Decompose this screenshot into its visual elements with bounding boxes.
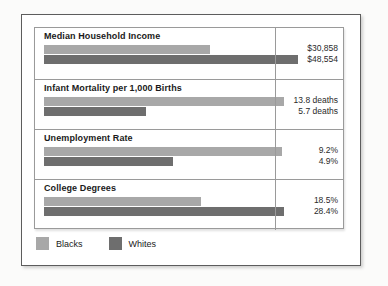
- chart-panel: Median Household Income $30,858 $48,554 …: [34, 27, 344, 229]
- bars-area: [44, 97, 275, 116]
- figure-root: Median Household Income $30,858 $48,554 …: [0, 0, 388, 286]
- metric-row: Median Household Income $30,858 $48,554: [35, 28, 343, 79]
- values-area: 13.8 deaths 5.7 deaths: [276, 95, 344, 117]
- value-whites: 28.4%: [276, 206, 338, 217]
- values-area: 18.5% 28.4%: [276, 195, 344, 217]
- bars-area: [44, 197, 275, 216]
- metric-title: Infant Mortality per 1,000 Births: [44, 83, 182, 93]
- bar-whites: [44, 55, 298, 64]
- value-blacks: 9.2%: [276, 145, 338, 156]
- metric-title: College Degrees: [44, 183, 116, 193]
- bar-whites: [44, 207, 284, 216]
- metric-row: College Degrees 18.5% 28.4%: [35, 179, 343, 230]
- legend-label: Whites: [129, 239, 157, 249]
- value-whites: $48,554: [276, 54, 338, 65]
- bar-blacks: [44, 197, 201, 206]
- bars-area: [44, 147, 275, 166]
- chart-legend: Blacks Whites: [36, 237, 182, 250]
- legend-swatch-icon: [109, 237, 122, 250]
- bar-blacks: [44, 147, 282, 156]
- bar-blacks: [44, 97, 284, 106]
- value-blacks: 13.8 deaths: [276, 95, 338, 106]
- values-area: 9.2% 4.9%: [276, 145, 344, 167]
- value-column-divider: [275, 28, 276, 230]
- bar-blacks: [44, 45, 210, 54]
- bar-whites: [44, 157, 173, 166]
- value-whites: 5.7 deaths: [276, 106, 338, 117]
- bars-area: [44, 45, 275, 64]
- legend-swatch-icon: [36, 237, 49, 250]
- metric-title: Unemployment Rate: [44, 133, 133, 143]
- figure-outer-frame: Median Household Income $30,858 $48,554 …: [21, 14, 361, 266]
- metric-row: Infant Mortality per 1,000 Births 13.8 d…: [35, 79, 343, 129]
- value-blacks: 18.5%: [276, 195, 338, 206]
- metric-row: Unemployment Rate 9.2% 4.9%: [35, 129, 343, 179]
- value-blacks: $30,858: [276, 43, 338, 54]
- metric-title: Median Household Income: [44, 31, 160, 41]
- legend-label: Blacks: [56, 239, 83, 249]
- legend-item-whites: Whites: [109, 237, 157, 250]
- value-whites: 4.9%: [276, 156, 338, 167]
- values-area: $30,858 $48,554: [276, 43, 344, 65]
- legend-item-blacks: Blacks: [36, 237, 83, 250]
- bar-whites: [44, 107, 146, 116]
